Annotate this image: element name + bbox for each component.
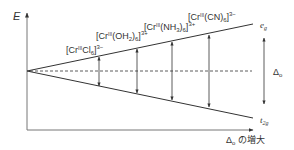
complex-label-cr-cn6: [CrIII(CN)6]3− <box>188 11 236 23</box>
complex-label-cr-oh2-6: [CrIII(OH2)6]3+ <box>96 30 148 42</box>
x-axis-label: Δo の増大 <box>226 134 265 146</box>
complex-label-cr-cl6: [CrIIICl6]3− <box>66 44 104 56</box>
y-axis-label: E <box>13 10 21 22</box>
complex-label-cr-nh3-6: [CrIII(NH3)6]3+ <box>144 21 196 33</box>
eg-label: eg <box>260 20 267 31</box>
ligand-field-splitting-diagram: E [CrIIICl6]3− [CrIII(OH2)6]3+ [CrIII(NH… <box>0 0 294 150</box>
delta-o-label: Δo <box>273 67 283 78</box>
t2g-label: t2g <box>260 115 269 126</box>
t2g-level-line <box>27 71 253 118</box>
